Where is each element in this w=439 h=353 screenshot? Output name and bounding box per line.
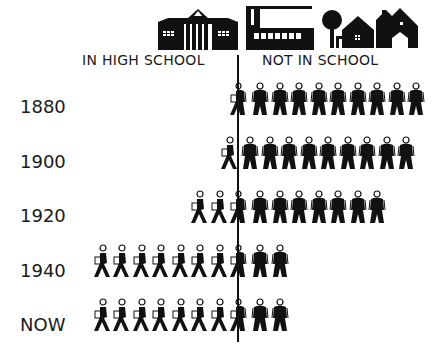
figure-not-in-school	[309, 82, 329, 116]
figure-not-in-school	[357, 136, 377, 170]
figure-row-1940	[0, 244, 439, 278]
figure-not-in-school-partial	[238, 82, 248, 116]
figure-not-in-school-partial	[238, 244, 248, 278]
figure-not-in-school	[328, 82, 348, 116]
figure-not-in-school	[348, 190, 368, 224]
figure-in-high-school	[92, 244, 112, 278]
figure-not-in-school	[377, 136, 397, 170]
figure-in-high-school	[189, 190, 209, 224]
figure-in-high-school	[189, 298, 209, 332]
figure-in-high-school	[219, 136, 239, 170]
figure-not-in-school	[406, 82, 426, 116]
figure-not-in-school	[250, 82, 270, 116]
figure-not-in-school	[309, 190, 329, 224]
figure-not-in-school	[328, 190, 348, 224]
figure-not-in-school-partial	[238, 190, 248, 224]
header-not-in-school: NOT IN SCHOOL	[262, 52, 378, 68]
figure-in-high-school	[131, 298, 151, 332]
figure-not-in-school	[260, 136, 280, 170]
figure-in-high-school	[92, 298, 112, 332]
figure-in-high-school	[209, 190, 229, 224]
figure-in-high-school	[150, 298, 170, 332]
figure-row-now	[0, 298, 439, 332]
figure-not-in-school	[250, 190, 270, 224]
figure-not-in-school	[367, 82, 387, 116]
figure-in-high-school	[111, 298, 131, 332]
figure-not-in-school	[396, 136, 416, 170]
figure-not-in-school	[367, 190, 387, 224]
figure-not-in-school	[348, 82, 368, 116]
barn-icon	[376, 6, 420, 48]
figure-in-high-school	[189, 244, 209, 278]
figure-not-in-school	[250, 244, 270, 278]
figure-not-in-school	[270, 244, 290, 278]
figure-not-in-school	[250, 298, 270, 332]
factory-icon	[246, 6, 314, 50]
figure-not-in-school	[240, 136, 260, 170]
figure-row-1900	[0, 136, 439, 170]
figure-not-in-school	[270, 82, 290, 116]
figure-not-in-school	[299, 136, 319, 170]
figure-not-in-school-partial	[238, 298, 248, 332]
figure-in-high-school	[209, 244, 229, 278]
figure-row-1920	[0, 190, 439, 224]
divider-line	[237, 55, 239, 342]
figure-not-in-school	[270, 298, 290, 332]
figure-in-high-school	[131, 244, 151, 278]
figure-not-in-school	[338, 136, 358, 170]
figure-in-high-school	[150, 244, 170, 278]
figure-row-1880	[0, 82, 439, 116]
figure-in-high-school	[170, 298, 190, 332]
header-in-high-school: IN HIGH SCHOOL	[82, 52, 205, 68]
figure-not-in-school	[270, 190, 290, 224]
figure-not-in-school	[387, 82, 407, 116]
school-building-icon	[158, 6, 238, 50]
house-icon	[336, 14, 376, 48]
figure-not-in-school	[289, 190, 309, 224]
figure-in-high-school	[209, 298, 229, 332]
figure-in-high-school	[111, 244, 131, 278]
figure-not-in-school	[318, 136, 338, 170]
figure-not-in-school	[289, 82, 309, 116]
figure-in-high-school	[170, 244, 190, 278]
figure-not-in-school	[279, 136, 299, 170]
